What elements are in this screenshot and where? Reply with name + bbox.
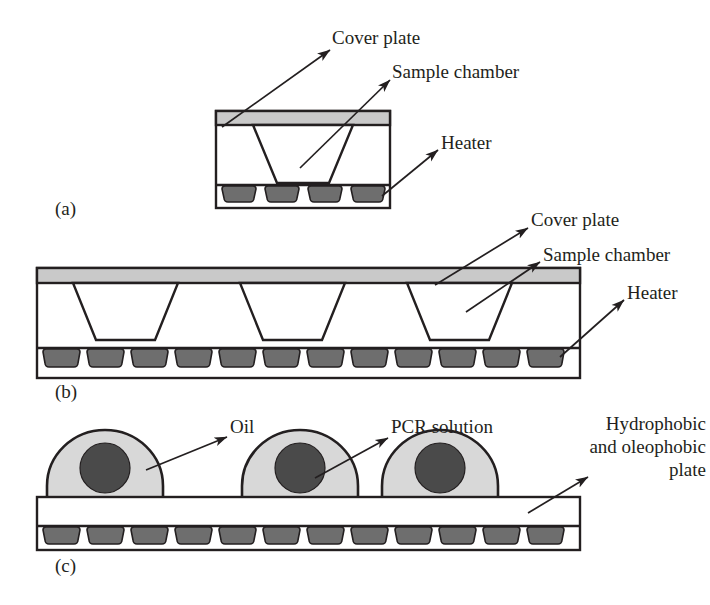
heater-segment	[131, 527, 168, 544]
heater-segment	[175, 527, 212, 544]
heater-segment	[175, 349, 212, 367]
label-plate-line3: plate	[669, 459, 706, 480]
heater-segment	[483, 349, 520, 367]
panel-letter-c: (c)	[55, 555, 76, 577]
heater-segment	[222, 186, 256, 202]
figure-root: Cover plate Sample chamber Heater Cover …	[0, 0, 710, 605]
heater-segment	[439, 349, 476, 367]
label-plate-line1: Hydrophobic	[606, 413, 706, 434]
heater-segment	[395, 527, 432, 544]
heater-segment	[527, 527, 564, 544]
label-pcr-solution: PCR solution	[391, 415, 493, 438]
diagram-canvas	[0, 0, 710, 605]
heater-segment	[43, 527, 80, 544]
label-sample-chamber-a: Sample chamber	[392, 60, 519, 83]
panel-letter-a: (a)	[55, 198, 76, 220]
heater-segment	[43, 349, 80, 367]
heater-segment	[307, 349, 344, 367]
heater-segment	[527, 349, 564, 367]
heater-segment	[263, 527, 300, 544]
label-sample-chamber-b: Sample chamber	[543, 243, 670, 266]
heater-segment	[351, 186, 385, 202]
label-oil: Oil	[230, 415, 254, 438]
heater-segment	[131, 349, 168, 367]
pcr-solution-core	[275, 443, 325, 493]
heater-segment	[263, 349, 300, 367]
heater-segment	[351, 527, 388, 544]
panel-c-oil-arrow	[146, 437, 227, 470]
heater-segment	[308, 186, 342, 202]
label-heater-a: Heater	[441, 131, 492, 154]
pcr-solution-core	[80, 443, 130, 493]
label-plate-line2: and oleophobic	[589, 436, 706, 457]
heater-segment	[307, 527, 344, 544]
heater-segment	[351, 349, 388, 367]
panel-c-droplets	[47, 430, 498, 498]
heater-segment	[395, 349, 432, 367]
panel-letter-b: (b)	[55, 381, 77, 403]
label-hydrophobic-oleophobic-plate: Hydrophobic and oleophobic plate	[540, 412, 706, 481]
heater-segment	[87, 527, 124, 544]
heater-segment	[219, 349, 256, 367]
heater-segment	[219, 527, 256, 544]
label-cover-plate-a: Cover plate	[332, 26, 420, 49]
heater-segment	[87, 349, 124, 367]
panel-c-device	[37, 430, 580, 550]
heater-segment	[483, 527, 520, 544]
panel-b-cover-plate	[37, 268, 580, 283]
panel-b-device	[37, 268, 580, 378]
heater-segment	[439, 527, 476, 544]
label-heater-b: Heater	[627, 281, 678, 304]
label-cover-plate-b: Cover plate	[531, 208, 619, 231]
pcr-solution-core	[415, 443, 465, 493]
heater-segment	[265, 186, 299, 202]
panel-a-device	[216, 111, 390, 208]
